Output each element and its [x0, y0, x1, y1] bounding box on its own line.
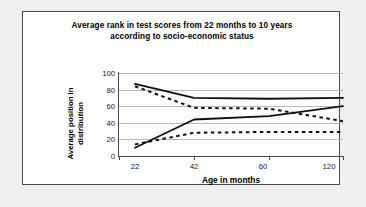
y-tick-label: 100 — [89, 69, 115, 78]
chart-title: Average rank in test scores from 22 mont… — [53, 20, 311, 42]
chart-title-line-2: according to socio-economic status — [53, 31, 311, 42]
series-lines — [119, 73, 343, 156]
x-tick-label: 60 — [248, 162, 278, 171]
chart-panel: Average rank in test scores from 22 mont… — [22, 11, 340, 185]
x-tick-mark — [119, 156, 120, 160]
x-tick-label: 120 — [314, 162, 344, 171]
x-tick-mark — [269, 156, 270, 160]
y-axis-tick-labels: 100 80 60 40 20 0 — [87, 73, 115, 156]
x-tick-mark — [194, 156, 195, 160]
y-tick-label: 20 — [89, 135, 115, 144]
y-axis — [118, 72, 119, 157]
x-tick-label: 22 — [120, 162, 150, 171]
x-axis-label: Age in months — [119, 175, 343, 185]
y-tick-label: 80 — [89, 86, 115, 95]
y-tick-label: 0 — [89, 152, 115, 161]
x-tick-label: 42 — [179, 162, 209, 171]
y-axis-label-line-2: distribution — [75, 78, 85, 170]
plot-area — [119, 73, 343, 156]
series-line — [135, 84, 343, 99]
series-line — [135, 106, 343, 148]
x-tick-mark — [343, 156, 344, 160]
x-axis — [118, 156, 344, 157]
chart-title-line-1: Average rank in test scores from 22 mont… — [53, 20, 311, 31]
y-axis-label-line-1: Average position in — [66, 78, 76, 170]
y-tick-label: 40 — [89, 119, 115, 128]
series-line — [135, 132, 343, 144]
y-tick-label: 60 — [89, 102, 115, 111]
